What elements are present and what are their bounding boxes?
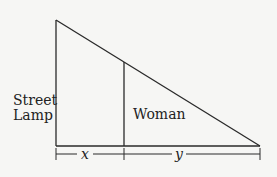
street-lamp-label-line1: Street [13,92,57,108]
light-ray-line [56,20,260,146]
similar-triangles-diagram: Street Lamp Woman x y [0,0,277,177]
y-label: y [174,146,184,162]
x-label: x [81,146,89,162]
woman-label: Woman [133,106,186,122]
diagram-svg: Street Lamp Woman x y [0,0,277,177]
street-lamp-label-line2: Lamp [13,107,53,123]
